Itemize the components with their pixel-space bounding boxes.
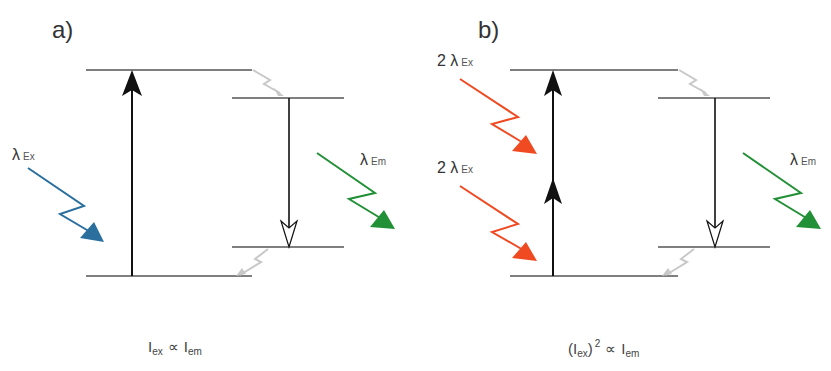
arrow-head-icon (700, 88, 710, 96)
relaxation-squiggle-bottom (240, 249, 268, 275)
panel-b-diagram (460, 70, 821, 276)
two-photon-excitation-label-lower: 2 λEx (437, 159, 473, 177)
excitation-photon-arrow-lower (460, 186, 525, 251)
relation-quadratic: (Iex)2∝Iem (568, 338, 639, 359)
arrow-head-icon (80, 222, 104, 242)
jablonski-diagram (0, 0, 831, 371)
arrow-head-icon (662, 268, 672, 276)
relaxation-squiggle-bottom (666, 249, 694, 275)
panel-a-label: a) (52, 16, 73, 44)
excitation-wavelength-label: λEx (12, 146, 35, 164)
panel-b-label: b) (478, 16, 499, 44)
panel-a-diagram (28, 70, 395, 276)
emission-wavelength-label: λEm (360, 151, 386, 169)
arrow-head-icon (236, 268, 246, 276)
excitation-photon-arrow (28, 168, 92, 233)
relation-linear: Iex∝Iem (148, 338, 202, 357)
emission-wavelength-label: λEm (790, 151, 816, 169)
two-photon-excitation-label-upper: 2 λEx (437, 52, 473, 70)
relaxation-squiggle-top (253, 70, 280, 93)
excitation-photon-arrow-upper (460, 79, 525, 144)
relaxation-squiggle-top (679, 70, 706, 93)
arrow-head-icon (274, 88, 284, 96)
